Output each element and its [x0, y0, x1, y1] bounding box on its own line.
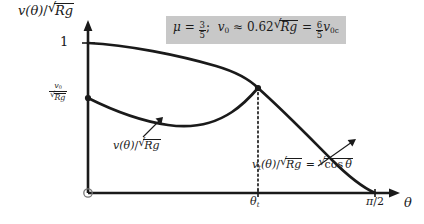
velocity-curve: [88, 88, 258, 126]
right-label-arrowhead: [348, 139, 356, 147]
lower-curve-label: v(θ)/Rg: [113, 138, 161, 151]
sqrt-icon: Rg: [280, 157, 302, 170]
y-tick-label-v0: v0 Rg: [49, 82, 67, 102]
y-tick-label-one: 1: [60, 35, 68, 48]
v0-over-sqrt-fraction: v0 Rg: [49, 82, 67, 102]
formula-mu-num: 3: [199, 21, 207, 30]
x-tick-label-pi-over-two: π/2: [366, 196, 384, 207]
x-axis-label: θ: [404, 196, 412, 209]
marker-v0: [85, 95, 91, 101]
formula-box: μ = 3 5 ; v0 ≈ 0.62Rg = 6 5 v0c: [166, 16, 346, 44]
formula-equals-2: =: [302, 20, 312, 34]
formula-v0c-sub: 0c: [330, 26, 339, 35]
formula-mu-den: 5: [199, 30, 207, 40]
formula-mu-fraction: 3 5: [199, 21, 207, 40]
pi-symbol: π: [366, 195, 373, 208]
formula-radicand: Rg: [279, 20, 298, 34]
envelope-curve-label: vt(θ)/Rg = cos θ: [252, 157, 353, 172]
envelope-label-equals: =: [306, 158, 315, 171]
ticks: [82, 43, 375, 197]
envelope-label-arg: (θ): [261, 158, 276, 171]
x-tick-label-theta-t: θt: [250, 196, 259, 209]
x-tick-theta: θ: [250, 195, 257, 208]
formula-v0-sub: 0: [225, 26, 230, 35]
sqrt-icon: Rg: [50, 92, 66, 102]
formula-coefficient: 0.62: [247, 20, 274, 34]
v0-denominator: Rg: [49, 91, 67, 102]
x-axis-arrowhead: [389, 189, 400, 198]
lower-curve-label-theta: (θ): [119, 139, 134, 152]
lower-curve-label-radicand: Rg: [143, 139, 160, 151]
y-axis-arrowhead: [84, 20, 93, 31]
x-tick-theta-sub: t: [257, 201, 260, 209]
y-axis-label-theta: (θ): [25, 3, 43, 18]
formula-mu: μ: [173, 20, 181, 34]
sqrt-icon: Rg: [274, 19, 298, 34]
sqrt-icon: Rg: [138, 138, 160, 151]
formula-semicolon: ;: [206, 20, 210, 34]
marker-theta-t: [255, 85, 261, 91]
formula-approx: ≈: [233, 20, 243, 34]
envelope-label-radicand: Rg: [285, 158, 302, 170]
formula-equals: =: [185, 20, 195, 34]
formula-v0: v: [218, 20, 225, 34]
sqrt-icon: cos θ: [318, 157, 352, 170]
y-axis-label: v(θ)/Rg: [18, 2, 74, 17]
sqrt-icon: Rg: [48, 2, 74, 17]
y-axis-label-radicand: Rg: [54, 3, 74, 17]
envelope-label-rhs-radicand: cos θ: [324, 158, 353, 170]
